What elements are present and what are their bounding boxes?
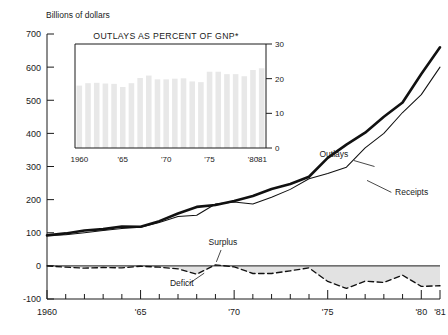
inset-bar (233, 74, 239, 148)
y-tick-label: 200 (26, 195, 41, 205)
x-tick-label: 1960 (37, 307, 57, 317)
inset-bar (181, 78, 187, 148)
inset-x-tick-label: '75 (204, 155, 215, 164)
inset-bar (85, 83, 91, 148)
inset-bar (103, 84, 109, 148)
inset-bar (129, 83, 135, 148)
y-tick-label: 100 (26, 228, 41, 238)
inset-y-tick-label: 10 (275, 109, 284, 118)
inset-bar (120, 87, 126, 148)
y-tick-label: 500 (26, 96, 41, 106)
inset-bar (250, 70, 256, 148)
annotation-deficit: Deficit (170, 278, 194, 288)
y-tick-label: 300 (26, 162, 41, 172)
x-tick-label: '81 (434, 307, 446, 317)
inset-bar (111, 84, 117, 148)
inset-bar (207, 72, 213, 148)
y-tick-label: 400 (26, 129, 41, 139)
y-tick-label: 600 (26, 63, 41, 73)
inset-bar (259, 68, 265, 148)
background (0, 0, 448, 335)
inset-title: OUTLAYS AS PERCENT OF GNP* (93, 31, 239, 41)
x-tick-label: '70 (228, 307, 240, 317)
inset-bar (198, 82, 204, 148)
inset-bar (215, 72, 221, 148)
y-tick-label: -100 (23, 294, 41, 304)
inset-bar (137, 78, 143, 148)
inset-y-tick-label: 0 (275, 144, 280, 153)
inset-bar (189, 81, 195, 148)
y-axis-title: Billions of dollars (46, 10, 110, 20)
y-tick-label: 700 (26, 29, 41, 39)
annotation-outlays: Outlays (319, 149, 348, 159)
chart-canvas: Billions of dollars 70060050040030020010… (0, 0, 448, 335)
x-tick-label: '65 (135, 307, 147, 317)
inset-bar (163, 79, 169, 148)
inset-x-tick-label: '81 (256, 155, 267, 164)
inset-x-tick-label: 1960 (70, 155, 88, 164)
annotation-surplus: Surplus (209, 237, 238, 247)
inset-bar (146, 76, 152, 148)
y-tick-label: 0 (36, 261, 41, 271)
annotation-receipts: Receipts (395, 187, 428, 197)
inset-bar (172, 79, 178, 148)
inset-y-tick-label: 30 (275, 40, 284, 49)
inset-bar (94, 83, 100, 148)
x-tick-label: '75 (322, 307, 334, 317)
inset-bar (77, 86, 83, 148)
inset-bar (155, 79, 161, 148)
inset-x-tick-label: '65 (118, 155, 129, 164)
inset-y-tick-label: 20 (275, 75, 284, 84)
inset-bar (224, 74, 230, 148)
chart-figure: Billions of dollars 70060050040030020010… (0, 0, 448, 335)
inset-x-tick-label: '70 (161, 155, 172, 164)
x-tick-label: '80 (415, 307, 427, 317)
inset-bar (242, 76, 248, 148)
